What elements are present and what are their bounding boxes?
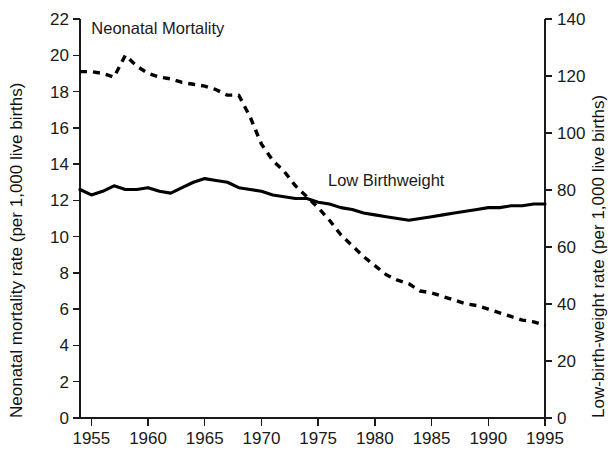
chart-container: 0246810121416182022 020406080100120140 1… [0,0,613,456]
right-tick-label: 0 [557,409,566,428]
x-tick-label: 1965 [186,429,224,448]
x-tick-label: 1990 [469,429,507,448]
x-tick-label: 1980 [356,429,394,448]
chart-background [0,0,613,456]
right-tick-label: 140 [557,10,585,29]
right-tick-label: 100 [557,124,585,143]
left-tick-label: 18 [50,83,69,102]
left-tick-label: 6 [60,300,69,319]
right-tick-label: 60 [557,238,576,257]
left-tick-label: 20 [50,46,69,65]
right-tick-label: 20 [557,352,576,371]
right-tick-label: 40 [557,295,576,314]
left-tick-label: 0 [60,409,69,428]
left-tick-label: 2 [60,373,69,392]
x-tick-label: 1960 [129,429,167,448]
right-tick-label: 80 [557,181,576,200]
x-tick-label: 1955 [72,429,110,448]
x-tick-label: 1995 [526,429,564,448]
left-tick-label: 22 [50,10,69,29]
dual-axis-line-chart: 0246810121416182022 020406080100120140 1… [0,0,613,456]
left-axis-title: Neonatal mortality rate (per 1,000 live … [7,83,26,418]
left-tick-label: 16 [50,119,69,138]
right-tick-label: 120 [557,67,585,86]
left-tick-label: 14 [50,155,69,174]
x-tick-label: 1970 [243,429,281,448]
right-axis-title: Low-birth-weight rate (per 1,000 live bi… [589,95,608,418]
left-tick-label: 10 [50,228,69,247]
left-tick-label: 4 [60,336,69,355]
neonatal-mortality-label: Neonatal Mortality [91,19,225,37]
x-tick-label: 1985 [413,429,451,448]
x-tick-label: 1975 [299,429,337,448]
left-tick-label: 12 [50,191,69,210]
low-birthweight-label: Low Birthweight [328,171,445,189]
left-tick-label: 8 [60,264,69,283]
